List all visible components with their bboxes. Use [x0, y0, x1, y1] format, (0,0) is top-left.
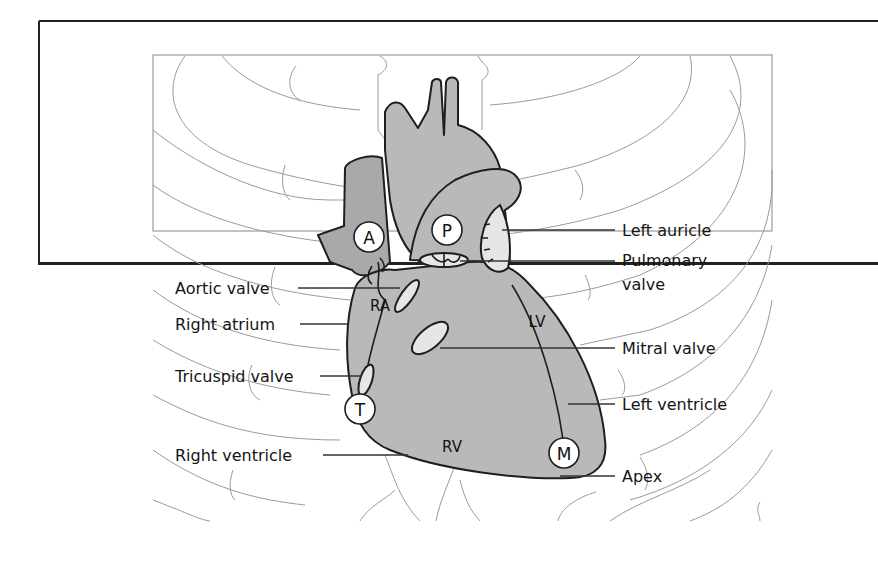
marker-tricuspid: T — [345, 394, 375, 424]
marker-pulmonary: P — [432, 215, 462, 245]
label-aortic-valve: Aortic valve — [175, 279, 270, 298]
label-left-auricle: Left auricle — [622, 221, 711, 240]
marker-mitral-text: M — [557, 444, 572, 464]
marker-aortic-text: A — [363, 228, 375, 248]
label-left-ventricle: Left ventricle — [622, 395, 727, 414]
marker-aortic: A — [354, 222, 384, 252]
label-right-atrium: Right atrium — [175, 315, 275, 334]
marker-mitral: M — [549, 438, 579, 468]
chamber-label-rv: RV — [442, 438, 463, 456]
label-right-ventricle: Right ventricle — [175, 446, 292, 465]
label-pulmonary-valve-line2: valve — [622, 275, 665, 294]
marker-tricuspid-text: T — [354, 400, 366, 420]
label-pulmonary-valve-line1: Pulmonary — [622, 251, 707, 270]
marker-pulmonary-text: P — [442, 221, 452, 241]
label-apex: Apex — [622, 467, 662, 486]
superior-vena-cava — [318, 156, 390, 275]
label-mitral-valve: Mitral valve — [622, 339, 715, 358]
chamber-label-ra: RA — [370, 297, 391, 315]
label-tricuspid-valve: Tricuspid valve — [174, 367, 294, 386]
heart-diagram: RA LV RV A P T M Aortic valve Right atri… — [0, 0, 878, 585]
chamber-label-lv: LV — [529, 313, 547, 331]
